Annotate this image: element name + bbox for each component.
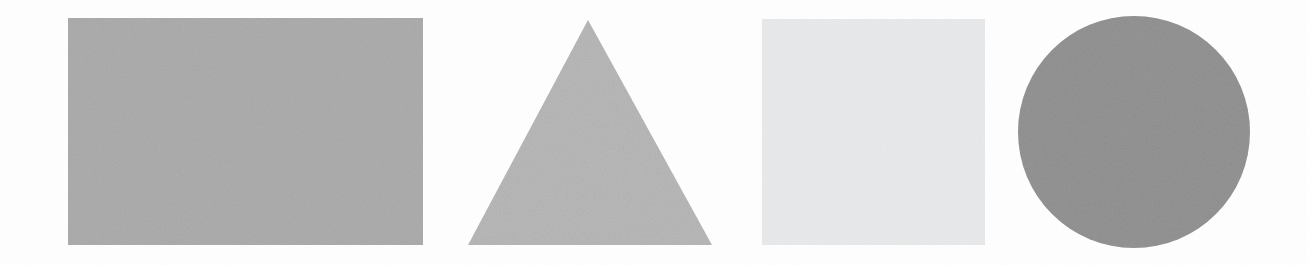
square-grain-texture [762,19,985,245]
circle-shape [1018,16,1250,248]
triangle-grain-texture [462,14,718,251]
triangle-shape [462,14,718,251]
circle-grain-texture [1018,16,1250,248]
rectangle-grain-texture [68,18,423,245]
square-shape [762,19,985,245]
shapes-canvas [0,0,1307,265]
rectangle-shape [68,18,423,245]
